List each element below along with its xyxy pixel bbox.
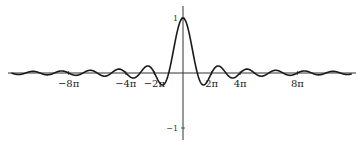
x-tick-label: −4π [115, 78, 137, 89]
y-tick-label: 1 [173, 14, 178, 23]
sinc-chart: −8π−4π−2π2π4π8π1−1 [0, 0, 361, 147]
x-tick-label: −8π [58, 78, 80, 89]
sinc-curve [11, 18, 351, 85]
x-tick-label: 2π [205, 78, 218, 89]
x-tick-label: −2π [144, 78, 166, 89]
x-tick-label: 4π [234, 78, 247, 89]
x-tick-label: 8π [291, 78, 304, 89]
y-tick-label: −1 [166, 124, 178, 133]
axes [8, 6, 356, 140]
